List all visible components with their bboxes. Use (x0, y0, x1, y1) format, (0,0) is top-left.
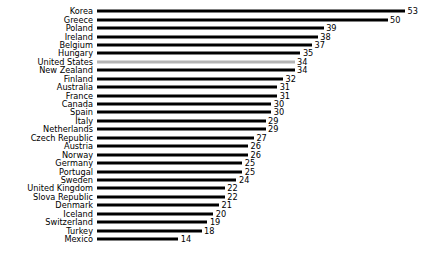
value-label: 18 (202, 226, 215, 234)
bar (97, 162, 242, 165)
bar-chart: Korea53Greece50Poland39Ireland38Belgium3… (0, 0, 435, 273)
chart-title (0, 0, 435, 3)
bar (97, 43, 312, 46)
bar (97, 221, 207, 224)
bar (97, 69, 295, 72)
value-label: 24 (236, 176, 249, 184)
bar (97, 94, 277, 97)
bar-highlight (97, 60, 295, 63)
bar (97, 212, 213, 215)
bar (97, 204, 219, 207)
bar (97, 136, 254, 139)
bar (97, 35, 318, 38)
bar (97, 238, 178, 241)
bar (97, 86, 277, 89)
bar (97, 18, 388, 21)
value-label: 29 (266, 125, 279, 133)
bar (97, 178, 236, 181)
bar (97, 170, 242, 173)
bar (97, 145, 248, 148)
value-label: 50 (388, 16, 401, 24)
bar (97, 27, 324, 30)
value-label: 37 (312, 41, 325, 49)
chart-plot-area: Korea53Greece50Poland39Ireland38Belgium3… (0, 7, 435, 273)
bar (97, 52, 300, 55)
bar (97, 195, 225, 198)
bar (97, 128, 266, 131)
chart-row: Spain30 (0, 108, 435, 116)
value-label: 14 (178, 235, 191, 243)
bar (97, 111, 271, 114)
bar (97, 103, 271, 106)
value-label: 34 (295, 66, 308, 74)
chart-row: Mexico14 (0, 235, 435, 243)
bar (97, 153, 248, 156)
bar (97, 10, 405, 13)
bar (97, 229, 202, 232)
category-label: Mexico (0, 235, 93, 243)
bar (97, 187, 225, 190)
bar (97, 119, 266, 122)
chart-row: Canada30 (0, 100, 435, 108)
value-label: 53 (405, 7, 418, 15)
bar (97, 77, 283, 80)
